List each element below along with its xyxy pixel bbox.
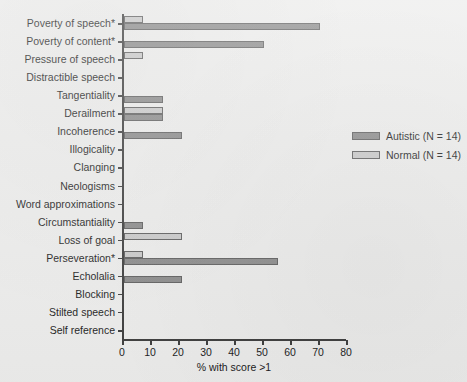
x-tick-label: 40 [228, 346, 240, 358]
bar-row: Clanging [122, 158, 346, 176]
category-label: Incoherence [57, 124, 115, 138]
y-axis-tick [118, 186, 123, 188]
legend-swatch [352, 151, 380, 159]
bar-row: Stilted speech [122, 303, 346, 321]
y-axis-tick [118, 113, 123, 115]
chart-legend: Autistic (N = 14)Normal (N = 14) [352, 130, 461, 161]
bar-row: Blocking [122, 285, 346, 303]
y-axis-tick [118, 149, 123, 151]
x-axis-title: % with score >1 [122, 361, 346, 373]
category-label: Circumstantiality [38, 215, 115, 229]
plot-area: Poverty of speech*Poverty of content*Pre… [122, 14, 346, 339]
bar-row: Loss of goal [122, 231, 346, 249]
bar-row: Word approximations [122, 195, 346, 213]
y-axis-tick [118, 204, 123, 206]
bar-normal [124, 107, 163, 114]
category-label: Perseveration* [46, 251, 115, 265]
bar-normal [124, 16, 144, 23]
category-label: Loss of goal [58, 233, 115, 247]
bar-row: Poverty of content* [122, 32, 346, 50]
x-tick-mark [206, 340, 208, 345]
category-label: Tangentiality [57, 88, 115, 102]
x-tick-mark [122, 340, 124, 345]
bar-normal [124, 251, 144, 258]
bar-row: Distractible speech [122, 68, 346, 86]
bar-autistic [124, 96, 163, 103]
bar-row: Tangentiality [122, 86, 346, 104]
bar-row: Poverty of speech* [122, 14, 346, 32]
category-label: Neologisms [60, 179, 115, 193]
y-axis-tick [118, 131, 123, 133]
category-label: Pressure of speech [25, 52, 115, 66]
y-axis-tick [118, 258, 123, 260]
x-tick-label: 10 [144, 346, 156, 358]
category-label: Stilted speech [49, 305, 115, 319]
category-label: Echolalia [72, 269, 115, 283]
y-axis-tick [118, 167, 123, 169]
bar-autistic [124, 114, 163, 121]
legend-entry: Autistic (N = 14) [352, 130, 461, 142]
y-axis-tick [118, 95, 123, 97]
y-axis-tick [118, 330, 123, 332]
y-axis-tick [118, 312, 123, 314]
bar-autistic [124, 23, 320, 30]
legend-swatch [352, 132, 380, 140]
category-label: Word approximations [16, 197, 115, 211]
x-tick-mark [290, 340, 292, 345]
bar-row: Illogicality [122, 140, 346, 158]
bar-autistic [124, 222, 144, 229]
x-tick-label: 20 [172, 346, 184, 358]
bar-chart-figure: Poverty of speech*Poverty of content*Pre… [0, 0, 467, 382]
legend-label: Normal (N = 14) [386, 149, 461, 161]
y-axis-tick [118, 41, 123, 43]
bar-row: Pressure of speech [122, 50, 346, 68]
bar-row: Self reference [122, 321, 346, 339]
bar-autistic [124, 41, 264, 48]
bar-rows-container: Poverty of speech*Poverty of content*Pre… [122, 14, 346, 339]
category-label: Clanging [74, 160, 115, 174]
bar-autistic [124, 276, 183, 283]
category-label: Self reference [50, 323, 115, 337]
category-label: Blocking [75, 287, 115, 301]
bar-normal [124, 52, 144, 59]
category-label: Distractible speech [26, 70, 115, 84]
bar-row: Incoherence [122, 122, 346, 140]
y-axis-tick [118, 23, 123, 25]
x-tick-label: 80 [340, 346, 352, 358]
category-label: Derailment [64, 106, 115, 120]
bar-normal [124, 233, 183, 240]
bar-row: Neologisms [122, 177, 346, 195]
x-tick-mark [318, 340, 320, 345]
x-tick-mark [178, 340, 180, 345]
y-axis-tick [118, 276, 123, 278]
y-axis-tick [118, 59, 123, 61]
bar-autistic [124, 132, 183, 139]
x-tick-label: 50 [256, 346, 268, 358]
category-label: Poverty of content* [26, 34, 115, 48]
x-tick-label: 60 [284, 346, 296, 358]
y-axis-tick [118, 77, 123, 79]
x-tick-mark [262, 340, 264, 345]
x-tick-mark [346, 340, 348, 345]
bar-row: Circumstantiality [122, 213, 346, 231]
x-tick-label: 30 [200, 346, 212, 358]
bar-row: Echolalia [122, 267, 346, 285]
x-tick-label: 70 [312, 346, 324, 358]
category-label: Poverty of speech* [27, 16, 115, 30]
legend-entry: Normal (N = 14) [352, 149, 461, 161]
y-axis-tick [118, 294, 123, 296]
bar-row: Perseveration* [122, 249, 346, 267]
bar-row: Derailment [122, 104, 346, 122]
bar-autistic [124, 258, 278, 265]
x-tick-mark [234, 340, 236, 345]
y-axis-tick [118, 222, 123, 224]
category-label: Illogicality [69, 142, 115, 156]
y-axis-tick [118, 240, 123, 242]
x-tick-mark [150, 340, 152, 345]
legend-label: Autistic (N = 14) [386, 130, 461, 142]
x-tick-label: 0 [119, 346, 125, 358]
